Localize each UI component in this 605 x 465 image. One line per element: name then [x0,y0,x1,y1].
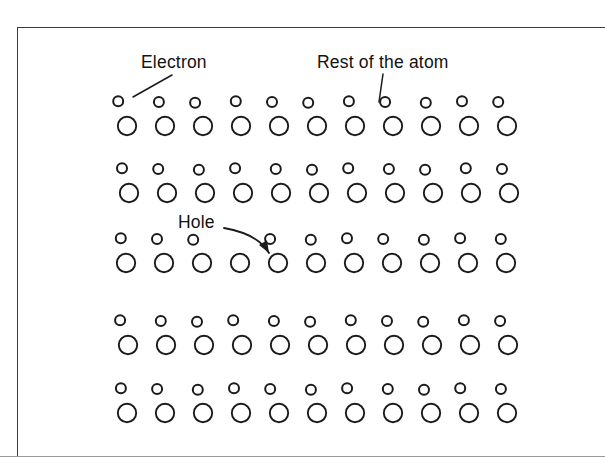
atom-core-circle [347,336,365,354]
atom-core-circle [346,404,364,422]
lattice-row [117,163,518,202]
electron-circle [265,384,275,394]
electron-circle [231,96,241,106]
electron-circle [267,97,277,107]
electron-circle [306,235,316,245]
atom-core-circle [271,336,289,354]
electron-leader-line [133,75,172,97]
atom-core-circle [461,336,479,354]
electron-circle [495,316,505,326]
atom-core-circle [120,184,138,202]
electron-circle [305,317,315,327]
atom-core-circle [499,336,517,354]
figure-root: Electron Rest of the atom Hole [0,0,605,465]
atom-core-circle [231,254,249,272]
electron-circle [269,316,279,326]
atom-core-circle [421,254,439,272]
atom-core-circle [196,184,214,202]
electron-circle [193,385,203,395]
atom-core-circle [156,404,174,422]
atom-core-circle [118,404,136,422]
electron-circle [455,383,465,393]
electron-circle [496,384,506,394]
electron-circle [116,383,126,393]
electron-circle [419,385,429,395]
electron-circle [344,96,354,106]
atom-core-circle [117,254,135,272]
atom-core-circle [422,117,440,135]
atom-core-circle [383,254,401,272]
electron-circle [229,383,239,393]
atom-core-circle [309,336,327,354]
electron-circle [461,163,471,173]
electron-circle [271,164,281,174]
electron-circle [154,97,164,107]
electron-circle [342,383,352,393]
atom-core-circle [386,184,404,202]
atom-core-circle [118,117,136,135]
electron-circle [152,384,162,394]
atom-core-circle [462,184,480,202]
electron-circle [380,97,390,107]
electron-circle [497,164,507,174]
electron-circle [153,164,163,174]
electron-circle [384,164,394,174]
atom-core-circle [233,336,251,354]
atom-core-circle [193,254,211,272]
electron-circle [190,98,200,108]
electron-circle [459,315,469,325]
atom-core-circle [119,336,137,354]
atom-core-circle [195,336,213,354]
atom-core-circle [498,117,516,135]
atom-core-circle [310,184,328,202]
atom-core-circle [308,117,326,135]
atom-core-circle [269,254,287,272]
electron-circle [457,96,467,106]
electron-circle [496,234,506,244]
label-electron: Electron [141,52,207,73]
electron-circle [493,97,503,107]
atom-core-circle [345,254,363,272]
electron-circle [115,315,125,325]
atom-core-circle [270,117,288,135]
lattice-circles-layer [113,96,518,422]
electron-circle [420,165,430,175]
atom-core-circle [423,336,441,354]
electron-circle [342,233,352,243]
electron-circle [343,163,353,173]
electron-circle [194,165,204,175]
atom-core-circle [385,336,403,354]
atom-core-circle [270,404,288,422]
atom-core-circle [460,404,478,422]
electron-circle [307,165,317,175]
atom-core-circle [500,184,518,202]
atom-core-circle [459,254,477,272]
atom-core-circle [308,404,326,422]
electron-circle [421,98,431,108]
electron-circle [383,384,393,394]
lattice-row [116,383,516,422]
lattice-diagram [0,0,605,465]
atom-core-circle [194,117,212,135]
electron-circle [117,163,127,173]
atom-core-circle [158,184,176,202]
electron-circle [418,317,428,327]
atom-core-circle [232,404,250,422]
lattice-row [115,315,517,354]
electron-circle [228,315,238,325]
atom-core-circle [234,184,252,202]
lattice-row [113,96,516,135]
atom-core-circle [422,404,440,422]
atom-core-circle [232,117,250,135]
label-hole: Hole [178,212,215,233]
atom-core-circle [384,404,402,422]
atom-core-circle [424,184,442,202]
atom-core-circle [272,184,290,202]
electron-circle [152,234,162,244]
atom-core-circle [460,117,478,135]
electron-circle [382,316,392,326]
atom-core-circle [155,254,173,272]
atom-core-circle [497,254,515,272]
lattice-row [116,233,515,272]
electron-circle [156,316,166,326]
